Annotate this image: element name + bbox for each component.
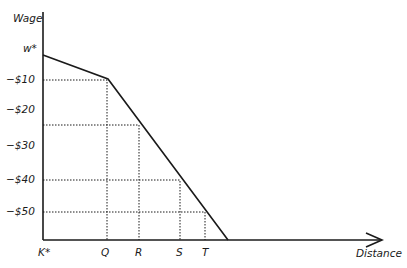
guide-r bbox=[43, 125, 139, 240]
guide-lines bbox=[43, 80, 205, 240]
y-tick-10: −$10 bbox=[6, 73, 35, 85]
x-tick-r: R bbox=[135, 246, 142, 258]
y-tick-50: −$50 bbox=[6, 205, 35, 217]
guide-s bbox=[43, 180, 180, 240]
wage-distance-chart: Wage w* −$10 −$20 −$30 −$40 −$50 K* Q R … bbox=[0, 0, 407, 268]
guide-q bbox=[43, 80, 107, 240]
x-tick-q: Q bbox=[101, 246, 109, 258]
x-tick-t: T bbox=[202, 246, 210, 258]
x-axis-label: Distance bbox=[356, 247, 402, 259]
y-axis-label: Wage bbox=[13, 12, 42, 24]
y-tick-20: −$20 bbox=[6, 103, 35, 115]
x-tick-s: S bbox=[176, 246, 183, 258]
y-tick-wstar: w* bbox=[23, 42, 37, 54]
guide-t bbox=[43, 212, 205, 240]
y-tick-30: −$30 bbox=[6, 139, 35, 151]
x-tick-kstar: K* bbox=[38, 246, 50, 258]
y-tick-40: −$40 bbox=[6, 173, 35, 185]
